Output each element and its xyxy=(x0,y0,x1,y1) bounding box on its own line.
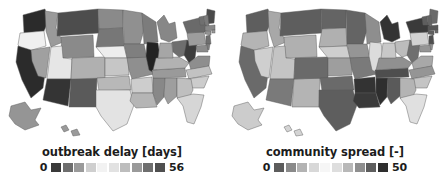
state-NM xyxy=(69,78,97,107)
state-TX xyxy=(319,90,357,131)
state-IA xyxy=(347,44,370,58)
state-CO xyxy=(294,57,328,79)
legend-swatch xyxy=(132,163,142,172)
state-KS xyxy=(105,58,129,76)
state-MN xyxy=(123,10,144,44)
state-MI xyxy=(380,15,400,42)
left-legend-min-label: 0 xyxy=(40,162,48,173)
left-legend-bar-row: 0 56 xyxy=(40,162,184,173)
left-legend-max-label: 56 xyxy=(169,162,184,173)
state-AK xyxy=(9,102,41,130)
legend-swatch xyxy=(120,163,130,172)
state-WI xyxy=(142,13,158,44)
state-AR xyxy=(131,77,153,93)
legend-swatch xyxy=(274,163,284,172)
state-LA xyxy=(130,93,157,108)
state-PA xyxy=(410,32,429,46)
state-IN xyxy=(158,43,173,58)
legend-swatch xyxy=(86,163,96,172)
left-legend: outbreak delay [days] 0 56 xyxy=(1,146,224,173)
state-SD xyxy=(319,28,347,47)
right-legend-min-label: 0 xyxy=(263,162,271,173)
legend-swatch xyxy=(309,163,319,172)
state-MT xyxy=(280,9,322,36)
right-panel: community spread [-] 0 50 xyxy=(224,0,447,181)
state-WY xyxy=(61,35,94,58)
state-RI xyxy=(212,30,215,33)
state-WA xyxy=(23,9,48,33)
state-NJ xyxy=(429,35,434,44)
legend-swatch xyxy=(63,163,73,172)
left-legend-swatches xyxy=(51,163,165,172)
left-panel: outbreak delay [days] 0 56 xyxy=(1,0,224,181)
legend-swatch xyxy=(74,163,84,172)
legend-swatch xyxy=(97,163,107,172)
state-IN xyxy=(381,43,396,58)
state-CT xyxy=(428,31,434,35)
state-MD xyxy=(419,45,431,52)
state-HI xyxy=(284,125,292,132)
state-FL xyxy=(400,94,427,124)
state-AK xyxy=(232,102,264,130)
state-NH xyxy=(427,15,432,26)
state-MD xyxy=(196,45,208,52)
right-map xyxy=(224,0,447,148)
state-OK xyxy=(97,76,131,91)
legend-swatch xyxy=(155,163,165,172)
right-legend: community spread [-] 0 50 xyxy=(224,146,447,173)
state-TX xyxy=(96,90,134,131)
dual-choropleth-figure: outbreak delay [days] 0 56 xyxy=(0,0,447,181)
state-WI xyxy=(365,13,381,44)
state-NM xyxy=(292,78,320,107)
state-AL xyxy=(387,78,400,104)
state-MI xyxy=(157,15,177,42)
state-RI xyxy=(435,30,438,33)
legend-swatch xyxy=(286,163,296,172)
state-ND xyxy=(98,9,123,29)
legend-swatch xyxy=(143,163,153,172)
right-legend-max-label: 50 xyxy=(392,162,407,173)
state-CT xyxy=(205,31,211,35)
right-legend-title: community spread [-] xyxy=(266,146,404,159)
state-AL xyxy=(164,78,177,104)
state-MT xyxy=(57,9,99,36)
state-PA xyxy=(187,32,206,46)
state-NE xyxy=(319,46,350,58)
state-KY xyxy=(376,57,412,70)
legend-swatch xyxy=(355,163,365,172)
state-MN xyxy=(346,10,367,44)
state-CO xyxy=(71,57,105,79)
state-SD xyxy=(96,28,124,47)
right-legend-swatches xyxy=(274,163,388,172)
state-NJ xyxy=(206,35,211,44)
state-KY xyxy=(153,57,189,70)
state-NE xyxy=(96,46,127,58)
state-AR xyxy=(354,77,376,93)
legend-swatch xyxy=(366,163,376,172)
state-HI-2 xyxy=(71,129,80,136)
left-legend-title: outbreak delay [days] xyxy=(42,146,182,159)
state-HI xyxy=(61,125,69,132)
state-AZ xyxy=(266,79,294,106)
legend-swatch xyxy=(109,163,119,172)
legend-swatch xyxy=(332,163,342,172)
state-FL xyxy=(177,94,204,124)
legend-swatch xyxy=(51,163,61,172)
state-AZ xyxy=(43,79,71,106)
legend-swatch xyxy=(297,163,307,172)
right-legend-bar-row: 0 50 xyxy=(263,162,407,173)
state-WY xyxy=(284,35,317,58)
state-IA xyxy=(124,44,147,58)
legend-swatch xyxy=(343,163,353,172)
state-NH xyxy=(204,15,209,26)
state-LA xyxy=(353,93,380,108)
state-ND xyxy=(321,9,346,29)
state-OK xyxy=(320,76,354,91)
left-map xyxy=(1,0,224,148)
legend-swatch xyxy=(378,163,388,172)
state-KS xyxy=(328,58,352,76)
legend-swatch xyxy=(320,163,330,172)
state-HI-2 xyxy=(294,129,303,136)
state-WA xyxy=(246,9,271,33)
